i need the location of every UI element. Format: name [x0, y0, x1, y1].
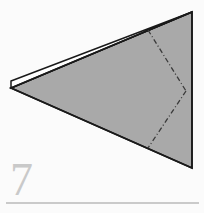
- origami-step-figure: 7: [0, 0, 204, 213]
- step-number: 7: [10, 157, 33, 203]
